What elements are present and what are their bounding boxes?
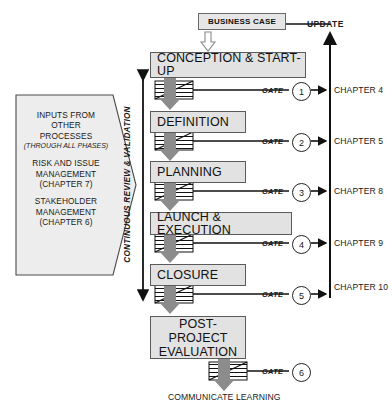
- phase-label: DEFINITION: [157, 116, 229, 129]
- gate-circle-2: 2: [292, 133, 311, 152]
- post-project-line-2: EVALUATION: [159, 345, 237, 359]
- inputs-line-3: PROCESSES: [18, 131, 114, 141]
- phase-label: PLANNING: [157, 166, 222, 179]
- phase-box-closure: CLOSURE: [150, 264, 246, 286]
- phase-box-definition: DEFINITION: [150, 111, 246, 133]
- inputs-line-10: (CHAPTER 6): [18, 217, 114, 227]
- gate-circle-6: 6: [292, 363, 311, 382]
- gate-label-4: GATE: [262, 239, 283, 248]
- gate-label-5: GATE: [262, 290, 283, 299]
- business-case-label: BUSINESS CASE: [208, 17, 276, 26]
- process-flow-diagram: BUSINESS CASE UPDATE INPUTS FROM OTHER P…: [0, 0, 392, 407]
- gate-label-2: GATE: [262, 137, 283, 146]
- inputs-line-4: (THROUGH ALL PHASES): [18, 141, 114, 151]
- gate-circle-1: 1: [292, 82, 311, 101]
- phase-label: LAUNCH & EXECUTION: [157, 211, 291, 237]
- update-label: UPDATE: [307, 19, 344, 29]
- phase-box-launch-execution: LAUNCH & EXECUTION: [150, 212, 292, 235]
- phase-box-conception: CONCEPTION & START-UP: [150, 52, 306, 78]
- continuous-review-label: CONTINUOUS REVIEW & VALIDATION: [123, 87, 132, 283]
- chapter-label-4: CHAPTER 9: [334, 238, 383, 248]
- phase-label: CLOSURE: [157, 269, 218, 282]
- phase-box-post-project-evaluation: POST-PROJECT EVALUATION: [150, 316, 246, 359]
- chapter-label-3: CHAPTER 8: [334, 186, 383, 196]
- inputs-line-7: (CHAPTER 7): [18, 179, 114, 189]
- gate-circle-4: 4: [292, 235, 311, 254]
- business-case-box: BUSINESS CASE: [198, 13, 286, 30]
- gate-circle-3: 3: [292, 183, 311, 202]
- inputs-line-6: MANAGEMENT: [18, 169, 114, 179]
- hollow-down-arrow-business-case: [201, 32, 215, 51]
- gate-label-6: GATE: [262, 367, 283, 376]
- inputs-arrow: INPUTS FROM OTHER PROCESSES (THROUGH ALL…: [8, 88, 136, 320]
- gate-label-3: GATE: [262, 187, 283, 196]
- continuous-review-label-wrap: CONTINUOUS REVIEW & VALIDATION: [120, 90, 134, 286]
- inputs-line-1: INPUTS FROM: [18, 110, 114, 120]
- chapter-label-5: CHAPTER 10: [334, 282, 388, 292]
- gate-label-1: GATE: [262, 86, 283, 95]
- phase-label: CONCEPTION & START-UP: [157, 52, 305, 78]
- chapter-label-1: CHAPTER 4: [334, 85, 383, 95]
- inputs-line-9: MANAGEMENT: [18, 207, 114, 217]
- inputs-line-2: OTHER: [18, 120, 114, 130]
- chapter-label-2: CHAPTER 5: [334, 136, 383, 146]
- phase-box-planning: PLANNING: [150, 161, 246, 183]
- post-project-line-1: POST-PROJECT: [151, 317, 245, 345]
- gate-circle-5: 5: [292, 286, 311, 305]
- inputs-line-8: STAKEHOLDER: [18, 196, 114, 206]
- communicate-learning-label: COMMUNICATE LEARNING: [168, 392, 281, 402]
- inputs-line-5: RISK AND ISSUE: [18, 158, 114, 168]
